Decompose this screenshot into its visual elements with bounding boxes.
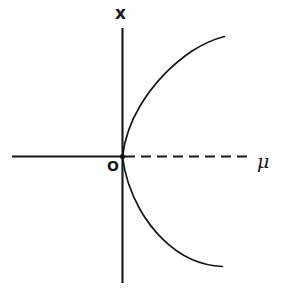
curve-upper-branch (123, 37, 225, 157)
bifurcation-diagram-figure: x μ O (0, 0, 282, 295)
origin-label: O (107, 159, 119, 173)
vertical-axis-label: x (115, 5, 126, 22)
horizontal-axis-label: μ (257, 152, 269, 171)
curve-lower-branch (123, 157, 223, 267)
plot-canvas (0, 0, 282, 295)
